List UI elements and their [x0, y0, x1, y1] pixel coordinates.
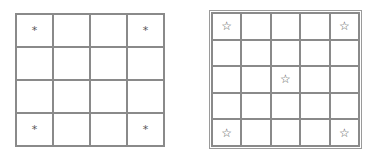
grid-cell: [242, 120, 269, 145]
asterisk-icon: *: [143, 124, 149, 135]
grid-cell: [242, 41, 269, 66]
grid-cell: [54, 81, 89, 112]
grid-cell: [17, 81, 52, 112]
grid-cell: *: [128, 114, 163, 145]
grid-cell: [242, 94, 269, 119]
grid-cell: [54, 15, 89, 46]
asterisk-icon: *: [32, 124, 38, 135]
grid-cell: [91, 81, 126, 112]
grid-4x4-asterisks: ****: [15, 13, 165, 147]
grid-cell: [17, 48, 52, 79]
star-outline-icon: ☆: [339, 127, 350, 139]
grid-cell: ☆: [213, 120, 240, 145]
grid-cell: *: [17, 15, 52, 46]
grid-cell: [128, 48, 163, 79]
grid-cell: [242, 14, 269, 39]
grid-cell: [301, 41, 328, 66]
grid-cell: ☆: [272, 67, 299, 92]
grid-5x5-stars: ☆☆☆☆☆: [211, 12, 360, 147]
grid-cell: [91, 114, 126, 145]
grid-cell: [213, 67, 240, 92]
grid-cell: [54, 114, 89, 145]
grid-cell: [242, 67, 269, 92]
star-outline-icon: ☆: [221, 127, 232, 139]
grid-cell: [331, 41, 358, 66]
grid-cell: [272, 14, 299, 39]
asterisk-icon: *: [143, 25, 149, 36]
grid-cell: [91, 15, 126, 46]
grid-cell: ☆: [331, 14, 358, 39]
grid-cell: [331, 67, 358, 92]
grid-cell: [272, 120, 299, 145]
star-outline-icon: ☆: [221, 20, 232, 32]
grid-cell: [301, 94, 328, 119]
grid-cell: [128, 81, 163, 112]
grid-cell: [213, 41, 240, 66]
grid-cell: *: [128, 15, 163, 46]
grid-cell: ☆: [213, 14, 240, 39]
grid-cell: [91, 48, 126, 79]
grid-cell: [272, 41, 299, 66]
grid-cell: [331, 94, 358, 119]
grid-cell: [54, 48, 89, 79]
grid-cell: [301, 67, 328, 92]
star-outline-icon: ☆: [280, 73, 291, 85]
grid-cell: [301, 120, 328, 145]
grid-cell: [301, 14, 328, 39]
grid-cell: [272, 94, 299, 119]
asterisk-icon: *: [32, 25, 38, 36]
grid-cell: [213, 94, 240, 119]
grid-cell: ☆: [331, 120, 358, 145]
grid-cell: *: [17, 114, 52, 145]
star-outline-icon: ☆: [339, 20, 350, 32]
